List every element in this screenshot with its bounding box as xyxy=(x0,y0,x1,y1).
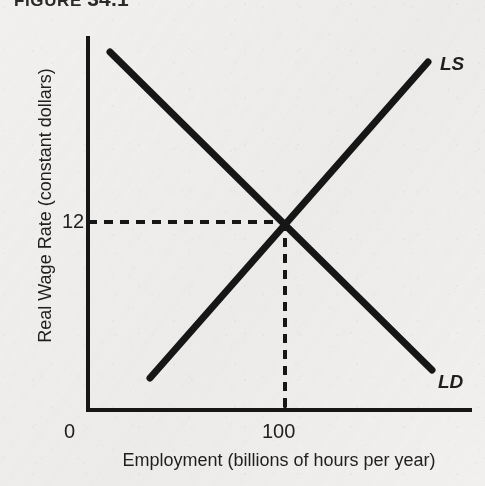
x-axis-title: Employment (billions of hours per year) xyxy=(88,450,470,471)
x-axis-tick-label-100: 100 xyxy=(262,420,295,443)
x-axis-tick-label-0: 0 xyxy=(64,420,75,443)
y-axis-title: Real Wage Rate (constant dollars) xyxy=(35,56,56,356)
curve-label-LS: LS xyxy=(440,53,464,75)
chart-plot-area xyxy=(0,0,485,486)
y-axis-tick-label-12: 12 xyxy=(62,210,84,233)
curve-labor-demand-LD xyxy=(110,52,432,370)
curve-label-LD: LD xyxy=(438,371,463,393)
figure-container: FIGURE 34.1 12 0 100 LS LD Real Wage Rat… xyxy=(0,0,485,486)
